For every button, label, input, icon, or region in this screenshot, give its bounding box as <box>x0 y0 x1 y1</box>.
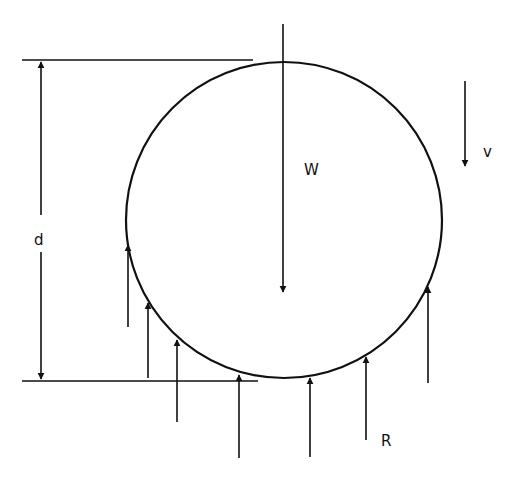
velocity-label: v <box>483 143 492 161</box>
velocity-indicator: v <box>465 81 492 166</box>
free-body-diagram: d W v R <box>0 0 517 478</box>
diameter-dimension: d <box>22 60 258 381</box>
diameter-label: d <box>34 231 44 249</box>
weight-label: W <box>304 161 319 179</box>
circular-body <box>126 62 442 378</box>
reaction-label: R <box>381 432 391 450</box>
reaction-forces: R <box>128 245 428 458</box>
